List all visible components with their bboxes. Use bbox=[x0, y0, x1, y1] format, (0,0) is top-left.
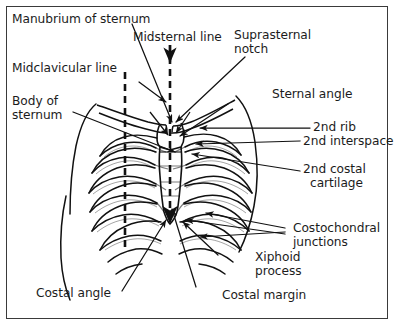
label-midclavicular-line: Midclavicular line bbox=[12, 62, 117, 76]
label-costal-margin: Costal margin bbox=[222, 289, 306, 303]
label-suprasternal-notch-line2: notch bbox=[234, 43, 268, 57]
label-sternal-angle: Sternal angle bbox=[272, 88, 352, 102]
label-costal-angle: Costal angle bbox=[36, 287, 111, 301]
label-body-of-sternum-line2: sternum bbox=[12, 109, 62, 123]
leader-midclavicular bbox=[139, 82, 166, 102]
label-2nd-costal-cartilage-line1: 2nd costal bbox=[303, 163, 366, 177]
label-costochondral-junctions-line1: Costochondral bbox=[293, 222, 380, 236]
label-manubrium-of-sternum: Manubrium of sternum bbox=[12, 13, 150, 27]
ribs-left-inner-shading bbox=[93, 146, 161, 250]
label-2nd-interspace: 2nd interspace bbox=[303, 135, 394, 149]
label-costochondral-junctions-line2: junctions bbox=[293, 236, 348, 250]
label-xiphoid-process-line2: process bbox=[255, 265, 301, 279]
sternum bbox=[157, 123, 184, 224]
label-suprasternal-notch-line1: Suprasternal bbox=[234, 29, 311, 43]
label-xiphoid-process-line1: Xiphoid bbox=[255, 251, 300, 265]
leader-sternal-angle bbox=[180, 104, 228, 136]
label-body-of-sternum-line1: Body of bbox=[12, 95, 58, 109]
label-midsternal-line: Midsternal line bbox=[133, 31, 222, 45]
label-2nd-costal-cartilage-line2: cartilage bbox=[310, 177, 363, 191]
leader-costochondral-3 bbox=[186, 220, 285, 234]
leader-costal-angle bbox=[122, 220, 166, 291]
label-2nd-rib: 2nd rib bbox=[313, 121, 356, 135]
figure-canvas: Manubrium of sternum Midsternal line Sup… bbox=[0, 0, 396, 327]
